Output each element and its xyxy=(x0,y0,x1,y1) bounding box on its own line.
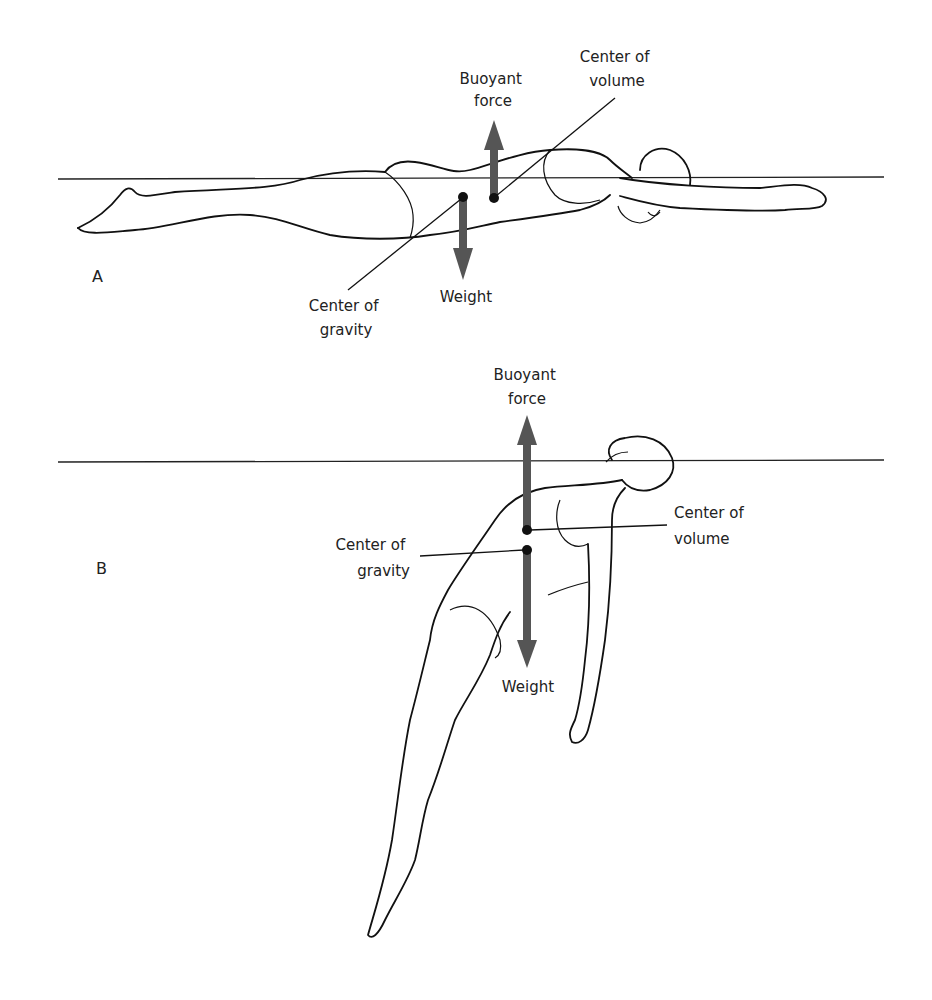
buoyant-force-label-b: Buoyant force xyxy=(493,366,560,408)
buoyant-force-arrow-b xyxy=(517,415,537,528)
center-of-gravity-label-a: Center of gravity xyxy=(309,297,384,339)
panel-label-b: B xyxy=(96,559,107,578)
water-surface-line-b xyxy=(58,460,884,462)
center-of-volume-label-b: Center of volume xyxy=(674,504,749,548)
center-of-volume-leader-a xyxy=(496,98,615,196)
center-of-volume-leader-b xyxy=(530,525,667,530)
weight-label-a: Weight xyxy=(440,288,492,306)
center-of-gravity-label-b: Center of gravity xyxy=(336,536,411,580)
panel-label-a: A xyxy=(92,267,103,286)
center-of-gravity-leader-a xyxy=(348,199,461,290)
weight-arrow-b xyxy=(517,552,537,668)
panel-a: Buoyant force Center of volume Center of… xyxy=(58,48,884,339)
water-surface-line-a xyxy=(58,177,884,179)
weight-arrow-a xyxy=(453,200,473,280)
weight-label-b: Weight xyxy=(502,678,554,696)
buoyancy-diagram: Buoyant force Center of volume Center of… xyxy=(0,0,932,1000)
center-of-gravity-leader-b xyxy=(420,550,524,556)
panel-b: Buoyant force Center of volume Center of… xyxy=(58,366,884,937)
center-of-volume-label-a: Center of volume xyxy=(580,48,655,90)
swimmer-horizontal xyxy=(78,149,826,239)
buoyant-force-arrow-a xyxy=(484,120,504,198)
buoyant-force-label-a: Buoyant force xyxy=(459,70,526,110)
